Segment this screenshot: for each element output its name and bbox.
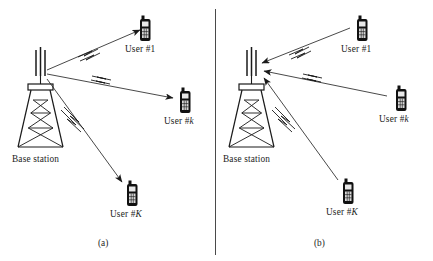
panel-b-uplink: Base station User #1 User #k User #K (b) xyxy=(217,0,433,261)
wave-symbol-user-K xyxy=(61,107,84,132)
mobile-phone-icon-user-k xyxy=(180,88,191,114)
uplink-beam-user-k xyxy=(264,71,387,96)
user-label-suffix: 1 xyxy=(150,44,155,54)
base-station-tower-icon xyxy=(18,47,63,147)
mobile-phone-icon-user-K xyxy=(127,181,138,207)
base-station-tower-icon xyxy=(229,47,274,147)
mobile-phone-icon-user-k xyxy=(396,86,407,112)
panel-caption-a: (a) xyxy=(98,238,108,248)
mobile-phone-icon-user-K xyxy=(343,179,354,205)
panel-a-downlink: Base station User #1 User #k User #K (a) xyxy=(0,0,216,261)
user-label-suffix: 1 xyxy=(366,44,371,54)
user-label-suffix: k xyxy=(189,116,193,126)
user-label-prefix: User # xyxy=(110,209,135,219)
user-label-prefix: User # xyxy=(125,44,150,54)
panel-a-scene xyxy=(0,0,216,261)
user-label-prefix: User # xyxy=(164,116,189,126)
mobile-phone-icon-user-1 xyxy=(357,16,368,42)
downlink-beam-user-k xyxy=(47,74,173,98)
mobile-phone-icon-user-1 xyxy=(140,16,151,42)
panel-b-scene xyxy=(217,0,433,261)
user-label-suffix: K xyxy=(351,207,357,217)
base-station-label-a: Base station xyxy=(12,155,59,164)
user-label-a-user-k: User #k xyxy=(164,117,194,126)
user-label-b-user-k: User #k xyxy=(379,115,409,124)
panel-caption-b: (b) xyxy=(314,238,325,248)
figure-root: Base station User #1 User #k User #K (a) xyxy=(0,0,433,261)
user-label-suffix: K xyxy=(135,209,141,219)
wave-symbol-user-1 xyxy=(289,47,311,59)
base-station-label-b: Base station xyxy=(223,155,270,164)
user-label-prefix: User # xyxy=(341,44,366,54)
user-label-suffix: k xyxy=(404,114,408,124)
uplink-beam-user-K xyxy=(264,78,338,180)
wave-symbol-user-K xyxy=(272,107,295,132)
downlink-beam-user-K xyxy=(47,79,122,182)
user-label-b-user-K: User #K xyxy=(326,208,358,217)
user-label-prefix: User # xyxy=(379,114,404,124)
user-label-b-user-1: User #1 xyxy=(341,45,371,54)
user-label-a-user-K: User #K xyxy=(110,210,142,219)
user-label-a-user-1: User #1 xyxy=(125,45,155,54)
uplink-beam-user-1 xyxy=(262,28,350,63)
user-label-prefix: User # xyxy=(326,207,351,217)
panel-divider xyxy=(215,9,216,255)
